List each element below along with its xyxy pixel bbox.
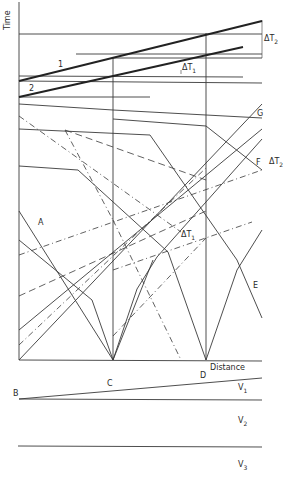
dashdot-3 bbox=[19, 168, 206, 345]
rising-line-c bbox=[113, 139, 262, 360]
label-v1: V1 bbox=[238, 384, 247, 392]
label-line-2: 2 bbox=[29, 85, 34, 93]
label-delta-t2-right: ΔT2 bbox=[269, 158, 283, 166]
line-f bbox=[113, 119, 262, 170]
h-line-c bbox=[19, 81, 262, 83]
rising-line-2 bbox=[113, 260, 153, 360]
line-to-c bbox=[19, 211, 113, 360]
time-distance-diagram bbox=[0, 0, 286, 486]
dashdot-2 bbox=[19, 170, 262, 255]
surface-line-bcd bbox=[19, 378, 262, 399]
label-f: F bbox=[256, 159, 261, 167]
h-line-b bbox=[19, 76, 243, 77]
dashed-1 bbox=[65, 130, 206, 180]
label-a: A bbox=[38, 219, 43, 227]
rising-line-d bbox=[206, 230, 262, 360]
rising-line-1 bbox=[19, 104, 262, 360]
layer-boundary-2 bbox=[18, 446, 262, 447]
dashdot-1 bbox=[19, 116, 181, 232]
label-g: G bbox=[257, 110, 263, 118]
line-g bbox=[19, 104, 262, 118]
label-v2: V2 bbox=[238, 417, 247, 425]
dashed-2 bbox=[19, 211, 206, 296]
distance-axis-label: Distance bbox=[210, 364, 245, 372]
dashdot-6 bbox=[65, 130, 113, 220]
label-line-1: 1 bbox=[58, 61, 63, 69]
label-delta-t1-mid: ΔT1 bbox=[181, 231, 195, 239]
label-d: D bbox=[200, 372, 206, 380]
line-left-upper bbox=[19, 129, 262, 318]
distance-axis bbox=[19, 360, 262, 361]
label-v3: V3 bbox=[238, 461, 247, 469]
time-axis-label: Time bbox=[4, 10, 12, 30]
label-c: C bbox=[107, 380, 113, 388]
label-delta-t1-top: ΔT1 bbox=[182, 64, 196, 72]
label-b: B bbox=[13, 390, 19, 398]
label-delta-t2-top: ΔT2 bbox=[264, 35, 278, 43]
rising-line-a bbox=[19, 129, 262, 330]
label-e: E bbox=[253, 282, 258, 290]
layer-boundary-1 bbox=[19, 399, 262, 400]
